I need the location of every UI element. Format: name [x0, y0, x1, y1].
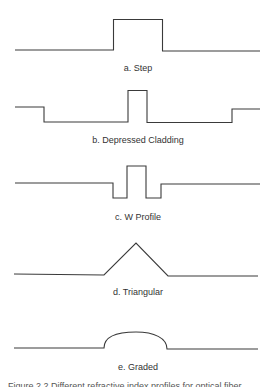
label-depressed-cladding: b. Depressed Cladding	[0, 135, 271, 146]
graded-profile-line	[14, 332, 258, 349]
label-step: a. Step	[0, 63, 271, 74]
label-triangular: d. Triangular	[0, 287, 271, 298]
step-profile-line	[15, 20, 260, 52]
w-profile-line	[15, 166, 260, 198]
figure-caption-clipped: Figure 2.2 Different refractive index pr…	[0, 381, 271, 387]
label-graded: e. Graded	[0, 362, 271, 373]
depressed-cladding-profile-line	[15, 91, 260, 123]
triangular-profile-line	[14, 243, 258, 276]
label-w-profile: c. W Profile	[0, 212, 271, 223]
refractive-index-profiles-diagram	[0, 0, 271, 387]
